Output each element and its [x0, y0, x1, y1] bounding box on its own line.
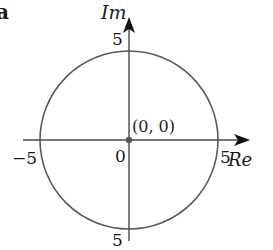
tick-label-im-minus-5: 5 [112, 232, 123, 249]
tick-label-im-5: 5 [112, 31, 123, 48]
tick-label-re-minus-5: −5 [12, 150, 37, 167]
imaginary-axis-label: Im [101, 3, 127, 22]
tick-label-origin-0: 0 [115, 148, 126, 165]
origin-coordinate-label: (0, 0) [132, 119, 175, 135]
origin-point [126, 137, 132, 143]
panel-label: a [0, 2, 9, 22]
real-axis-label: Re [228, 151, 252, 169]
